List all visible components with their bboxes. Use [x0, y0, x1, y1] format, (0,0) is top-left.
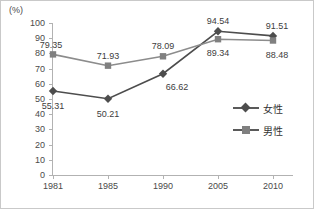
data-point-label: 66.62 [166, 82, 189, 92]
legend-item-male[interactable]: 男性 [233, 119, 307, 141]
y-tick-mark [49, 23, 52, 24]
data-point-label: 50.21 [97, 109, 120, 119]
legend-item-female[interactable]: 女性 [233, 97, 307, 119]
y-tick-mark [49, 114, 52, 115]
data-point-diamond [269, 32, 277, 40]
x-tick-mark [53, 176, 54, 179]
y-tick-mark [49, 69, 52, 70]
data-point-label: 89.34 [207, 48, 230, 58]
y-tick-label: 10 [17, 155, 45, 165]
legend-label-male: 男性 [259, 123, 283, 138]
x-axis-line [52, 175, 293, 176]
x-tick-label: 1981 [33, 181, 73, 191]
chart-legend: 女性 男性 [233, 97, 307, 141]
data-point-square [105, 62, 111, 68]
x-tick-mark [218, 176, 219, 179]
x-tick-mark [273, 176, 274, 179]
x-tick-mark [163, 176, 164, 179]
x-tick-label: 2005 [198, 181, 238, 191]
diamond-marker-icon [233, 102, 259, 114]
y-tick-label: 30 [17, 124, 45, 134]
data-point-label: 94.54 [207, 16, 230, 26]
y-tick-mark [49, 99, 52, 100]
y-tick-mark [49, 53, 52, 54]
chart-container: (%) 1009080706050403020100 1981198519902… [0, 0, 314, 209]
data-point-label: 55.31 [42, 101, 65, 111]
legend-label-female: 女性 [259, 101, 283, 116]
data-point-label: 79.35 [40, 40, 63, 50]
y-tick-mark [49, 175, 52, 176]
y-tick-mark [49, 145, 52, 146]
data-point-square [160, 53, 166, 59]
data-point-diamond [159, 70, 167, 78]
data-point-label: 88.48 [266, 50, 289, 60]
square-marker-icon [233, 124, 259, 136]
x-tick-label: 1990 [143, 181, 183, 191]
y-tick-label: 20 [17, 140, 45, 150]
x-tick-mark [108, 176, 109, 179]
data-point-diamond [49, 87, 57, 95]
data-point-label: 71.93 [97, 51, 120, 61]
y-tick-label: 70 [17, 64, 45, 74]
y-tick-mark [49, 160, 52, 161]
data-point-diamond [104, 94, 112, 102]
y-tick-mark [49, 129, 52, 130]
data-point-square [215, 36, 221, 42]
y-tick-mark [49, 84, 52, 85]
data-point-label: 91.51 [266, 21, 289, 31]
y-tick-label: 60 [17, 79, 45, 89]
x-tick-label: 2010 [253, 181, 293, 191]
y-tick-label: 100 [17, 18, 45, 28]
y-tick-mark [49, 38, 52, 39]
y-tick-label: 0 [17, 170, 45, 180]
x-tick-label: 1985 [88, 181, 128, 191]
y-axis-unit-label: (%) [9, 5, 23, 15]
data-point-label: 78.09 [152, 41, 175, 51]
data-point-square [270, 37, 276, 43]
data-point-diamond [214, 27, 222, 35]
